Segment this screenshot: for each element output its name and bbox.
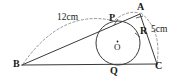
label-point-q: Q bbox=[110, 66, 118, 76]
label-point-r: R bbox=[140, 26, 147, 36]
geometry-figure: A B C P Q R O 12cm 5cm bbox=[0, 0, 182, 81]
label-vertex-a: A bbox=[137, 2, 144, 12]
label-vertex-b: B bbox=[13, 59, 20, 69]
label-vertex-c: C bbox=[155, 61, 162, 71]
label-point-p: P bbox=[109, 13, 115, 23]
label-length-bp: 12cm bbox=[57, 13, 78, 23]
triangle-sides bbox=[22, 14, 157, 65]
arc-ac-dimension bbox=[141, 13, 158, 63]
label-length-rc: 5cm bbox=[151, 25, 167, 35]
tick-vertex-a bbox=[136, 16, 143, 18]
segment-bc bbox=[22, 64, 157, 65]
label-center-o: O bbox=[114, 43, 121, 52]
segment-ac bbox=[140, 14, 157, 64]
